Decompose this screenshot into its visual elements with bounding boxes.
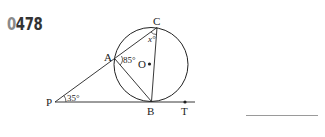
label-a: A — [104, 51, 112, 63]
chord-ab — [115, 59, 152, 102]
angle-a-label: 85° — [123, 55, 136, 65]
label-t: T — [181, 105, 188, 117]
center-dot — [148, 62, 151, 65]
answer-blank-line[interactable] — [246, 115, 318, 116]
angle-p-arc — [64, 96, 66, 103]
angle-p-label: 35° — [67, 93, 80, 103]
label-p: P — [46, 96, 52, 108]
label-c: C — [153, 15, 160, 27]
geometry-diagram: C A O P B T 35° 85° x° — [0, 0, 325, 137]
point-t-dot — [183, 100, 186, 103]
label-o: O — [138, 58, 146, 70]
label-b: B — [147, 105, 154, 117]
angle-c-label: x° — [147, 34, 156, 44]
